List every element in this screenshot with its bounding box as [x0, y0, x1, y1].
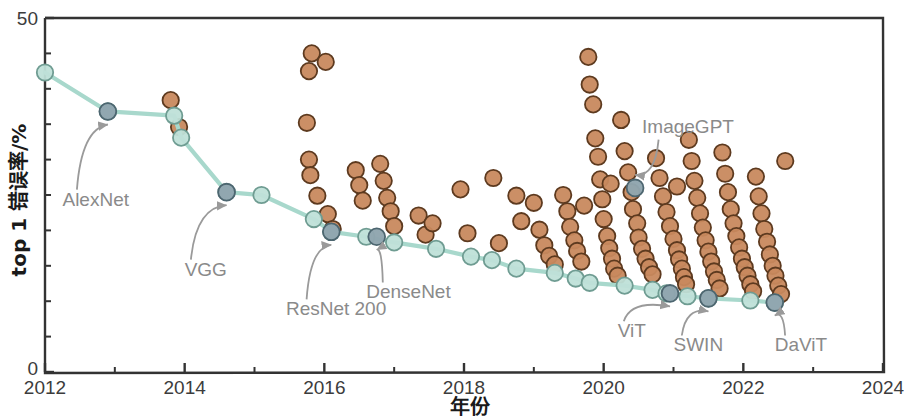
y-axis-title: top 1 错误率/%	[7, 124, 31, 277]
annotation-label-vit: ViT	[618, 320, 647, 341]
population-data-point	[644, 266, 660, 282]
frontier-data-point	[484, 252, 500, 268]
population-data-point	[508, 188, 524, 204]
annotation-leader-arrow	[682, 311, 709, 336]
frontier-data-point	[37, 64, 53, 80]
population-data-point	[620, 164, 636, 180]
population-data-point	[655, 188, 671, 204]
highlighted-model-marker	[627, 180, 644, 197]
population-data-point	[302, 167, 318, 183]
frontier-data-point	[386, 234, 402, 250]
frontier-data-point	[253, 187, 269, 203]
highlighted-model-marker	[662, 285, 679, 302]
population-data-point	[576, 197, 592, 213]
population-data-point	[594, 191, 610, 207]
population-data-point	[301, 63, 317, 79]
population-data-point	[616, 143, 632, 159]
frontier-data-point	[166, 108, 182, 124]
x-axis-title: 年份	[450, 395, 491, 419]
population-data-point	[491, 235, 507, 251]
annotation-leader-arrow	[191, 205, 227, 260]
population-data-point	[351, 177, 367, 193]
x-tick-label: 2024	[862, 377, 904, 398]
population-data-point	[485, 170, 501, 186]
population-data-point	[580, 49, 596, 65]
annotation-leader-arrow	[307, 245, 332, 300]
population-data-point	[750, 188, 766, 204]
frontier-data-point	[679, 288, 695, 304]
population-data-point	[382, 203, 398, 219]
annotation-label-vgg: VGG	[185, 259, 227, 280]
population-data-point	[526, 195, 542, 211]
annotation-leader-arrow	[635, 140, 659, 175]
annotation-leader-arrow	[775, 315, 785, 336]
population-data-point	[301, 151, 317, 167]
population-data-point	[348, 162, 364, 178]
population-data-point	[686, 173, 702, 189]
population-data-point	[573, 253, 589, 269]
annotation-leader-arrow	[624, 305, 670, 322]
population-data-point	[318, 54, 334, 70]
frontier-data-point	[306, 211, 322, 227]
frontier-data-point	[508, 260, 524, 276]
frontier-data-point	[173, 129, 189, 145]
annotation-label-imagegpt: ImageGPT	[642, 116, 734, 137]
annotation-label-densenet: DenseNet	[366, 281, 451, 302]
x-axis-major-ticks	[45, 363, 883, 372]
x-tick-label: 2016	[303, 377, 345, 398]
population-data-point	[372, 156, 388, 172]
y-tick-label: 0	[27, 358, 38, 379]
population-data-point	[459, 225, 475, 241]
annotation-label-davit: DaViT	[775, 334, 828, 355]
highlighted-model-marker	[323, 223, 340, 240]
chart-canvas: 2012201420162018202020222024 050 AlexNet…	[0, 0, 904, 419]
population-data-point	[689, 190, 705, 206]
chart-figure: 2012201420162018202020222024 050 AlexNet…	[0, 0, 904, 419]
population-data-point	[424, 215, 440, 231]
population-data-point	[753, 205, 769, 221]
population-data-point	[386, 218, 402, 234]
population-scatter-series	[163, 45, 794, 302]
population-data-point	[683, 153, 699, 169]
frontier-data-point	[742, 292, 758, 308]
population-data-point	[559, 203, 575, 219]
population-data-point	[375, 173, 391, 189]
highlighted-model-marker	[766, 294, 783, 311]
frontier-data-point	[582, 275, 598, 291]
annotation-label-alexnet: AlexNet	[62, 189, 129, 210]
x-tick-label: 2012	[24, 377, 66, 398]
population-data-point	[355, 192, 371, 208]
population-data-point	[720, 184, 736, 200]
population-data-point	[555, 187, 571, 203]
population-data-point	[590, 149, 606, 165]
population-data-point	[602, 175, 618, 191]
population-data-point	[299, 115, 315, 131]
population-data-point	[777, 153, 793, 169]
population-data-point	[613, 112, 629, 128]
population-data-point	[748, 168, 764, 184]
annotation-leader-arrow	[377, 250, 383, 283]
population-data-point	[531, 221, 547, 237]
annotation-leader-arrow	[77, 125, 108, 190]
population-data-point	[582, 76, 598, 92]
x-tick-label: 2014	[164, 377, 207, 398]
frontier-data-point	[463, 248, 479, 264]
highlighted-model-marker	[218, 184, 235, 201]
population-data-point	[309, 188, 325, 204]
highlighted-model-marker	[99, 103, 116, 120]
population-data-point	[714, 144, 730, 160]
frontier-data-point	[428, 241, 444, 257]
population-data-point	[717, 166, 733, 182]
population-data-point	[452, 181, 468, 197]
frontier-data-point	[616, 277, 632, 293]
y-tick-label: 50	[17, 8, 38, 29]
population-data-point	[587, 130, 603, 146]
population-data-point	[585, 96, 601, 112]
highlighted-model-marker	[368, 228, 385, 245]
population-data-point	[163, 92, 179, 108]
frontier-data-point	[547, 265, 563, 281]
highlighted-model-marker	[700, 290, 717, 307]
population-data-point	[669, 178, 685, 194]
x-tick-label: 2020	[583, 377, 625, 398]
x-tick-label: 2022	[722, 377, 764, 398]
